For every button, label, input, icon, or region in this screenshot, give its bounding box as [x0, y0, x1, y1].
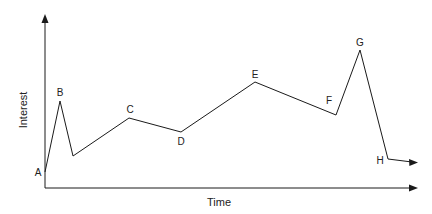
- point-label-a: A: [35, 167, 42, 178]
- x-axis-label: Time: [207, 196, 231, 208]
- point-label-h: H: [376, 155, 383, 166]
- point-label-d: D: [177, 136, 184, 147]
- x-axis: [45, 185, 418, 192]
- point-labels: ABCDEFGH: [35, 37, 384, 178]
- y-axis-arrow-icon: [42, 14, 49, 23]
- y-axis-label: Interest: [17, 92, 29, 129]
- point-label-f: F: [326, 95, 332, 106]
- line-end-arrow-icon: [409, 159, 418, 166]
- interest-over-time-chart: Interest Time ABCDEFGH: [0, 0, 432, 214]
- point-label-b: B: [57, 87, 64, 98]
- point-label-e: E: [252, 69, 259, 80]
- interest-line: [45, 50, 412, 172]
- point-label-c: C: [126, 104, 133, 115]
- point-label-g: G: [356, 37, 364, 48]
- x-axis-arrow-icon: [409, 185, 418, 192]
